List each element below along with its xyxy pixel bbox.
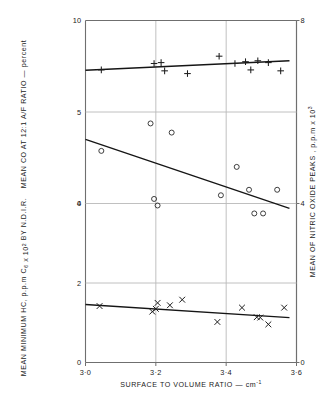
- data-point-circle: [169, 130, 174, 135]
- x-tick-label: 3·6: [291, 368, 303, 377]
- co-y-tick-label: 10: [73, 16, 82, 25]
- data-point-circle: [275, 187, 280, 192]
- data-point-plus: [158, 59, 165, 66]
- no-y-tick-label: 4: [301, 199, 305, 208]
- hc-y-tick-label: 4: [77, 199, 81, 208]
- data-point-plus: [265, 59, 272, 66]
- data-point-plus: [98, 67, 105, 74]
- data-point-cross: [281, 305, 287, 311]
- no-panel-series: [86, 121, 290, 216]
- data-point-plus: [161, 68, 168, 75]
- data-point-circle: [252, 211, 257, 216]
- data-point-plus: [255, 57, 262, 64]
- hc-panel-series: [86, 297, 290, 327]
- data-point-circle: [148, 121, 153, 126]
- x-axis-label: SURFACE TO VOLUME RATIO — cm-1: [120, 379, 262, 389]
- co-y-axis-label: MEAN CO AT 12:1 A/F RATIO — percent: [20, 40, 28, 189]
- data-point-circle: [261, 211, 266, 216]
- co-panel-series: [86, 53, 290, 77]
- data-point-plus: [216, 53, 223, 60]
- no-y-axis-label: MEAN OF NITRIC OXIDE PEAKS , p.p.m x 103: [307, 106, 317, 277]
- hc-y-tick-label: 2: [77, 279, 81, 288]
- data-point-cross: [214, 319, 220, 325]
- chart-figure: 3·03·23·43·6SURFACE TO VOLUME RATIO — cm…: [0, 0, 325, 415]
- x-tick-label: 3·4: [220, 368, 232, 377]
- x-tick-label: 3·0: [80, 368, 92, 377]
- no-y-tick-label: 0: [301, 358, 305, 367]
- data-point-circle: [247, 187, 252, 192]
- data-point-cross: [239, 305, 245, 311]
- data-point-circle: [99, 148, 104, 153]
- data-point-plus: [184, 70, 191, 77]
- data-point-circle: [218, 193, 223, 198]
- data-point-plus: [242, 58, 249, 65]
- data-point-cross: [167, 302, 173, 308]
- trend-line: [86, 61, 290, 71]
- trend-line: [86, 139, 290, 208]
- data-point-cross: [265, 321, 271, 327]
- data-point-cross: [149, 309, 155, 315]
- no-y-tick-label: 8: [301, 16, 305, 25]
- hc-y-tick-label: 0: [77, 358, 81, 367]
- data-point-plus: [277, 68, 284, 75]
- data-point-cross: [179, 297, 185, 303]
- x-tick-label: 3·2: [150, 368, 162, 377]
- data-point-circle: [234, 164, 239, 169]
- data-point-plus: [232, 60, 239, 67]
- data-point-plus: [247, 67, 254, 74]
- data-point-plus: [151, 60, 158, 67]
- co-y-tick-label: 5: [77, 108, 81, 117]
- scatter-chart: 3·03·23·43·6SURFACE TO VOLUME RATIO — cm…: [0, 0, 325, 415]
- hc-y-axis-label: MEAN MINIMUM HC, p.p.m C6 x 102 BY N.D.I…: [20, 198, 31, 377]
